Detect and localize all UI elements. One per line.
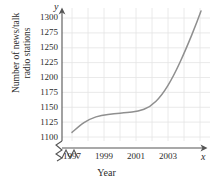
y-axis-title: Number of news/talk radio stations — [11, 0, 33, 113]
y-axis-title-line-1: Number of news/talk — [11, 0, 22, 113]
y-axis-title-line-2: radio stations — [22, 0, 33, 113]
y-axis-name: y — [54, 2, 58, 12]
x-tick-label-2003: 2003 — [151, 152, 185, 161]
x-tick-label-1997: 1997 — [55, 152, 89, 161]
grid-vertical — [72, 8, 200, 141]
x-tick-label-2001: 2001 — [119, 152, 153, 161]
y-tick-label-1100: 1100 — [28, 133, 58, 142]
data-curve — [72, 11, 201, 132]
x-axis-name: x — [201, 152, 205, 162]
y-axis — [59, 8, 66, 142]
y-tick-label-1125: 1125 — [28, 118, 58, 127]
x-tick-label-1999: 1999 — [87, 152, 121, 161]
x-axis-title: Year — [0, 168, 213, 178]
chart-figure: 1300 1275 1250 1225 1200 1175 1150 1125 … — [0, 0, 213, 187]
